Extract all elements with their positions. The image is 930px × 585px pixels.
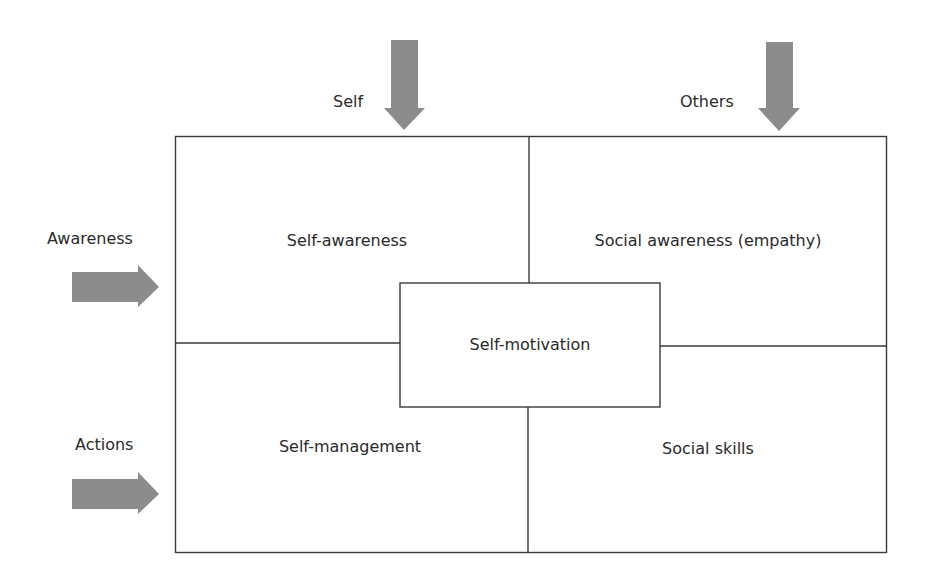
arrow-right-actions-icon (72, 472, 159, 514)
row-label-actions: Actions (75, 437, 133, 453)
column-label-self: Self (333, 94, 363, 110)
arrow-right-awareness-icon (72, 265, 159, 307)
quadrant-social-skills: Social skills (662, 441, 754, 457)
quadrant-self-awareness: Self-awareness (287, 233, 407, 249)
diagram-canvas (0, 0, 930, 585)
center-label-self-motivation: Self-motivation (470, 337, 591, 353)
quadrant-social-awareness: Social awareness (empathy) (595, 233, 822, 249)
arrow-down-self-icon (384, 40, 425, 130)
quadrant-self-management: Self-management (279, 439, 421, 455)
arrow-down-others-icon (758, 42, 800, 131)
column-label-others: Others (680, 94, 734, 110)
row-label-awareness: Awareness (47, 231, 133, 247)
